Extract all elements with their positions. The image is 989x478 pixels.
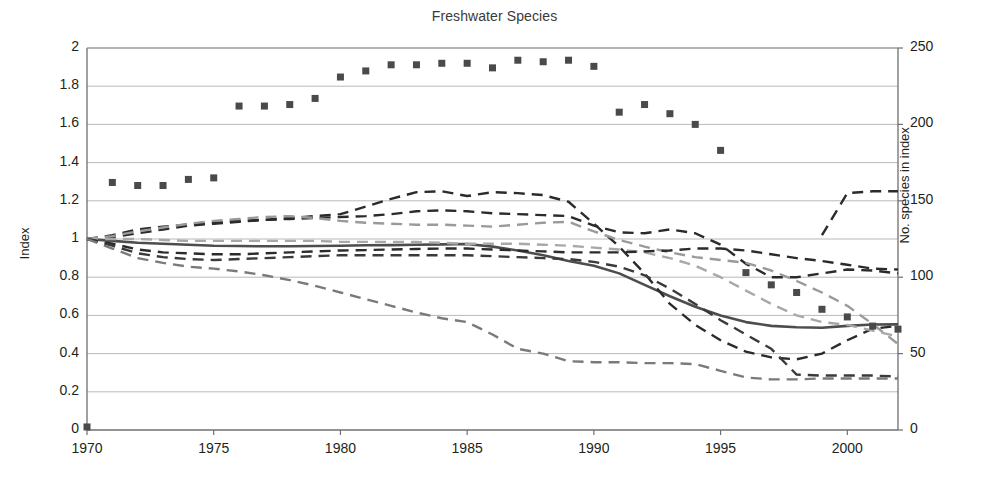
scatter-marker [286,101,293,108]
scatter-marker [641,101,648,108]
scatter-marker [565,57,572,64]
scatter-marker [717,147,724,154]
series-mid-band-light [87,216,898,344]
scatter-marker [160,182,167,189]
scatter-marker [818,306,825,313]
plot-area [0,0,989,478]
scatter-marker [895,326,902,333]
scatter-marker [768,281,775,288]
scatter-marker [413,61,420,68]
series-layer [87,191,898,379]
scatter-marker [185,176,192,183]
scatter-marker [109,179,116,186]
series-freshwater-index [87,239,898,328]
series-lower-band-dark-2 [87,239,898,377]
scatter-marker [793,289,800,296]
scatter-marker [692,121,699,128]
scatter-marker [540,58,547,65]
scatter-marker [438,60,445,67]
scatter-marker [742,269,749,276]
scatter-marker [844,313,851,320]
scatter-marker [489,64,496,71]
scatter-marker [261,103,268,110]
axis-lines [87,48,903,435]
scatter-marker [590,63,597,70]
scatter-marker [666,110,673,117]
scatter-marker [337,74,344,81]
scatter-marker [210,174,217,181]
gridlines [87,48,898,392]
scatter-marker [134,182,141,189]
series-rising-tail-dark [822,191,898,235]
scatter-marker [388,61,395,68]
scatter-marker [362,67,369,74]
scatter-marker [464,60,471,67]
scatter-marker [616,109,623,116]
series-mid-band-light-2 [87,239,898,336]
scatter-marker [312,95,319,102]
series-lowest-band-mid [87,239,898,379]
scatter-marker [869,323,876,330]
freshwater-species-chart: Freshwater Species Index No. species in … [0,0,989,478]
scatter-marker [514,57,521,64]
scatter-marker [236,103,243,110]
scatter-marker [84,423,91,430]
